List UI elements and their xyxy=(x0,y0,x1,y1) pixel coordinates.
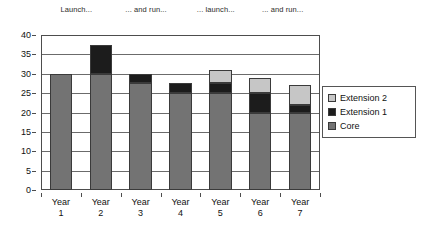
bar-segment xyxy=(289,85,311,104)
x-tick-label: Year5 xyxy=(200,197,240,219)
bar-segment xyxy=(249,78,271,94)
legend-item: Core xyxy=(328,119,411,133)
bar-segment xyxy=(169,93,191,190)
bar-segment xyxy=(129,74,151,84)
bar-group xyxy=(209,35,231,190)
legend-item: Extension 1 xyxy=(328,105,411,119)
phase-annotations: Launch...... and run...... launch...... … xyxy=(40,5,320,21)
x-tick-label: Year2 xyxy=(81,197,121,219)
y-tick-mark xyxy=(32,151,36,152)
bar-segment xyxy=(90,74,112,190)
bar-group xyxy=(169,35,191,190)
legend-label: Extension 1 xyxy=(340,107,387,118)
bar-segment xyxy=(249,93,271,112)
y-tick-mark xyxy=(32,190,36,191)
legend-swatch-icon xyxy=(328,108,336,116)
bar-segment xyxy=(129,83,151,190)
legend-label: Extension 2 xyxy=(340,93,387,104)
legend-swatch-icon xyxy=(328,94,336,102)
y-tick-label: 25 xyxy=(21,88,31,98)
y-tick-mark xyxy=(32,74,36,75)
bar-segment xyxy=(50,74,72,190)
y-tick-label: 30 xyxy=(21,69,31,79)
legend-label: Core xyxy=(340,121,360,132)
bar-segment xyxy=(289,105,311,113)
legend-item: Extension 2 xyxy=(328,91,411,105)
phase-annotation: ... and run... xyxy=(262,5,303,14)
x-tick-label: Year7 xyxy=(280,197,320,219)
bar-segment xyxy=(90,45,112,74)
y-tick-label: 20 xyxy=(21,108,31,118)
y-tick-label: 0 xyxy=(26,185,31,195)
y-tick-mark xyxy=(32,54,36,55)
bar-segment xyxy=(289,113,311,191)
bar-group xyxy=(90,35,112,190)
y-tick-label: 15 xyxy=(21,127,31,137)
y-tick-mark xyxy=(32,35,36,36)
y-tick-mark xyxy=(32,132,36,133)
bar-segment xyxy=(169,83,191,93)
y-tick-mark xyxy=(32,171,36,172)
y-tick-label: 5 xyxy=(26,166,31,176)
y-tick-mark xyxy=(32,113,36,114)
x-tick-label: Year4 xyxy=(161,197,201,219)
x-tick-label: Year3 xyxy=(121,197,161,219)
bar-group xyxy=(249,35,271,190)
y-tick-label: 10 xyxy=(21,146,31,156)
chart-legend: Extension 2Extension 1Core xyxy=(322,86,416,138)
phase-annotation: ... and run... xyxy=(125,5,166,14)
x-tick-mark xyxy=(320,193,321,197)
bar-segment xyxy=(249,113,271,191)
x-tick-label: Year6 xyxy=(240,197,280,219)
bars-layer xyxy=(41,35,320,190)
bar-group xyxy=(50,35,72,190)
y-tick-mark xyxy=(32,93,36,94)
x-tick-label: Year1 xyxy=(41,197,81,219)
phase-annotation: Launch... xyxy=(60,5,92,14)
legend-swatch-icon xyxy=(328,122,336,130)
bar-segment xyxy=(209,93,231,190)
stacked-bar-chart: Launch...... and run...... launch...... … xyxy=(0,0,422,231)
phase-annotation: ... launch... xyxy=(197,5,235,14)
y-axis: 0510152025303540 xyxy=(0,28,36,198)
x-axis: Year1Year2Year3Year4Year5Year6Year7 xyxy=(41,193,320,227)
bar-group xyxy=(129,35,151,190)
bar-group xyxy=(289,35,311,190)
y-tick-label: 35 xyxy=(21,49,31,59)
bar-segment xyxy=(209,83,231,93)
bar-segment xyxy=(209,70,231,84)
y-tick-label: 40 xyxy=(21,30,31,40)
